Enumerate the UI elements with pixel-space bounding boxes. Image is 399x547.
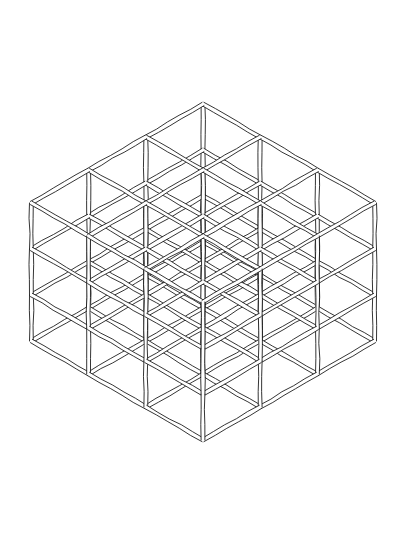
isometric-cube-lattice-drawing	[0, 0, 399, 547]
lattice-struts	[29, 102, 377, 441]
artboard	[0, 0, 399, 547]
